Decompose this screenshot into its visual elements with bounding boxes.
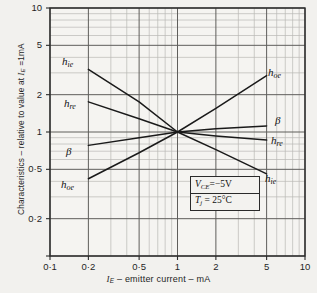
y-axis-tick-10: 10	[12, 2, 42, 13]
curve-label-h_oe-right: hoe	[268, 66, 281, 80]
annotation-vce-value: =−5V	[210, 179, 232, 189]
chart-plot-area	[0, 0, 317, 293]
curve-label-h_ie-left: hie	[62, 55, 73, 69]
y-axis-label-subscript: E	[20, 68, 26, 72]
x-axis-tick-10: 10	[290, 261, 317, 272]
annotation-tj: Tj = 25°C	[191, 194, 259, 210]
x-axis-tick-5: 5	[252, 261, 282, 272]
conditions-annotation-box: VCE=−5V Tj = 25°C	[190, 176, 260, 211]
curve-label-base: β	[66, 145, 71, 157]
y-axis-tick-0·5: 0·5	[12, 163, 42, 174]
curve-label-subscript: re	[277, 139, 283, 148]
y-axis-tick-1: 1	[12, 126, 42, 137]
annotation-vce: VCE=−5V	[191, 177, 259, 194]
annotation-vce-subscript: CE	[201, 182, 210, 189]
y-axis-tick-5: 5	[12, 39, 42, 50]
y-axis-tick-0·2: 0·2	[12, 213, 42, 224]
y-axis-tick-2: 2	[12, 89, 42, 100]
curve-label-beta-right: β	[275, 114, 280, 126]
y-axis-label-symbol: I	[17, 72, 26, 75]
x-axis-label-tail: – emitter current – mA	[114, 274, 210, 284]
curve-label-subscript: re	[70, 102, 76, 111]
chart-figure: Characteristics – relative to value at I…	[0, 0, 317, 293]
x-axis-tick-0·2: 0·2	[73, 261, 103, 272]
x-axis-tick-2: 2	[201, 261, 231, 272]
curve-label-subscript: oe	[274, 71, 281, 80]
x-axis-tick-0·5: 0·5	[124, 261, 154, 272]
curve-label-h_oe-left: hoe	[61, 178, 74, 192]
curve-label-subscript: ie	[68, 60, 74, 69]
curve-label-h_re-left: hre	[64, 97, 76, 111]
x-axis-label: IE – emitter current – mA	[0, 274, 317, 284]
x-axis-tick-0·1: 0·1	[35, 261, 65, 272]
curve-label-base: β	[275, 114, 280, 126]
curve-label-subscript: oe	[67, 183, 74, 192]
curve-label-beta-left: β	[66, 145, 71, 157]
annotation-tj-value: = 25°C	[202, 195, 232, 205]
curve-label-subscript: ie	[271, 177, 277, 186]
curve-label-h_ie-right: hie	[265, 172, 276, 186]
curve-label-h_re-right: hre	[271, 134, 283, 148]
x-axis-tick-1: 1	[163, 261, 193, 272]
